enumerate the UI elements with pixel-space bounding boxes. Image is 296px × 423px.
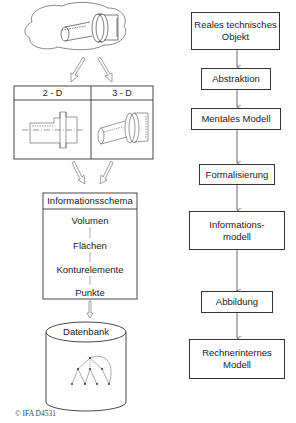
step-informationsmodell: Informations- modell — [189, 211, 285, 250]
technical-part-icon — [61, 14, 118, 42]
3d-model-icon — [98, 113, 148, 144]
hollow-arrow-right — [98, 57, 112, 82]
schema-title: Informationsschema — [43, 195, 137, 206]
step-reales-objekt: Reales technisches Objekt — [191, 12, 280, 50]
table-header-2d: 2 - D — [14, 88, 91, 98]
hollow-arrow-converge-left — [72, 161, 85, 184]
step-mentales-modell: Mentales Modell — [191, 108, 281, 130]
schema-level-flaechen: Flächen — [43, 240, 137, 251]
database-label: Datenbank — [46, 326, 126, 337]
step-abbildung: Abbildung — [201, 291, 273, 313]
table-header-3d: 3 - D — [91, 88, 153, 98]
cloud-outline — [25, 2, 126, 49]
schema-level-punkte: Punkte — [43, 287, 137, 298]
schema-level-konturelemente: Konturelemente — [43, 264, 137, 275]
hollow-arrow-left — [71, 57, 85, 82]
step-abstraktion: Abstraktion — [201, 68, 271, 90]
step-formalisierung: Formalisierung — [199, 164, 275, 185]
hollow-arrow-down — [87, 301, 93, 318]
hollow-arrow-converge-right — [100, 161, 113, 184]
schema-level-volumen: Volumen — [43, 215, 137, 226]
copyright-notice: © IFA D4531 — [15, 409, 56, 418]
step-rechnerinternes-modell: Rechnerinternes Modell — [189, 339, 285, 379]
2d-drawing-icon — [22, 112, 85, 148]
